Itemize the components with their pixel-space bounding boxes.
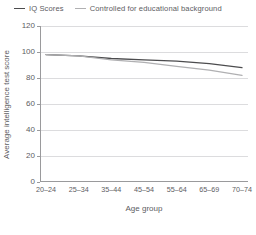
- x-tick-label: 70–74: [232, 186, 252, 194]
- chart-legend: IQ Scores Controlled for educational bac…: [0, 0, 256, 16]
- chart-figure: IQ Scores Controlled for educational bac…: [0, 0, 256, 235]
- plot-area: 020406080100120 20–2425–3435–4445–5455–6…: [40, 26, 248, 182]
- series-layer: [40, 26, 248, 182]
- y-tick-label: 80: [26, 74, 35, 82]
- x-tick-label: 20–24: [36, 186, 56, 194]
- y-tick-label: 60: [26, 100, 35, 108]
- legend-item-controlled-education: Controlled for educational background: [75, 4, 222, 13]
- y-axis-title: Average intelligence test score: [0, 26, 12, 182]
- y-tick-label: 40: [26, 126, 35, 134]
- x-tick-label: 35–44: [101, 186, 121, 194]
- x-tick-label: 45–54: [134, 186, 154, 194]
- y-tick-mark: [37, 182, 40, 183]
- legend-swatch-controlled-education: [75, 8, 86, 9]
- legend-item-iq-scores: IQ Scores: [14, 4, 64, 13]
- y-tick-label: 120: [22, 22, 35, 30]
- x-tick-label: 55–64: [167, 186, 187, 194]
- legend-label-controlled-education: Controlled for educational background: [90, 4, 222, 13]
- series-line: [46, 55, 242, 76]
- y-tick-label: 100: [22, 48, 35, 56]
- y-axis-title-text: Average intelligence test score: [2, 50, 11, 159]
- y-tick-label: 0: [31, 178, 35, 186]
- series-line: [46, 55, 242, 68]
- x-axis-title: Age group: [40, 204, 248, 214]
- x-tick-label: 65–69: [199, 186, 219, 194]
- legend-label-iq-scores: IQ Scores: [29, 4, 64, 13]
- y-tick-label: 20: [26, 152, 35, 160]
- x-tick-label: 25–34: [69, 186, 89, 194]
- legend-swatch-iq-scores: [14, 8, 25, 9]
